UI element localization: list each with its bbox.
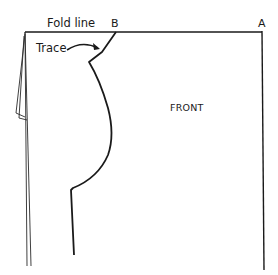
fold-line-label: Fold line <box>47 18 95 30</box>
neckline-armhole-curve <box>71 32 116 255</box>
point-a-label: A <box>258 18 266 29</box>
trace-arrow-icon <box>67 43 100 50</box>
center-front-edge <box>262 31 264 270</box>
pattern-diagram: Fold line B A Trace FRONT <box>0 0 278 275</box>
left-layered-edges <box>16 32 31 266</box>
pattern-piece-name: FRONT <box>170 103 203 113</box>
point-b-label: B <box>111 18 119 29</box>
trace-label: Trace <box>36 43 67 55</box>
